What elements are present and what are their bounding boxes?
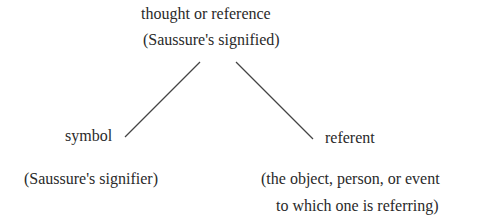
- referent-label: referent: [325, 130, 375, 146]
- edge-top-to-referent: [236, 62, 313, 139]
- top-node-note: (Saussure's signified): [143, 32, 280, 48]
- referent-note-line1: (the object, person, or event: [261, 171, 440, 187]
- top-node-label: thought or reference: [141, 6, 271, 22]
- symbol-note: (Saussure's signifier): [24, 171, 158, 187]
- symbol-label: symbol: [65, 128, 112, 144]
- edge-top-to-symbol: [125, 62, 200, 137]
- referent-note-line2: to which one is referring): [276, 198, 439, 214]
